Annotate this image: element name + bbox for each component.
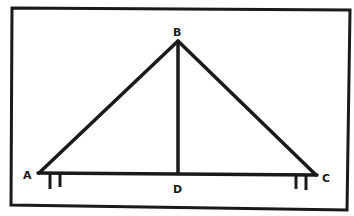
label-b: B xyxy=(173,26,181,39)
label-c: C xyxy=(322,172,330,185)
label-d: D xyxy=(173,183,182,196)
truss-diagram: A B C D xyxy=(0,0,354,216)
support-right-icon xyxy=(296,175,306,190)
member-bc xyxy=(178,41,316,175)
label-a: A xyxy=(23,169,32,182)
support-left-icon xyxy=(50,174,60,189)
member-ab xyxy=(39,41,178,173)
